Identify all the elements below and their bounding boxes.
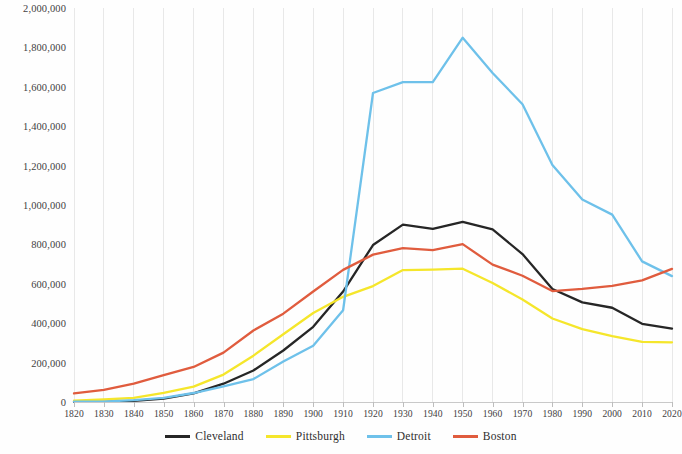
- x-tick-mark: [164, 402, 165, 407]
- y-tick-label: 400,000: [0, 318, 66, 329]
- legend-label: Cleveland: [195, 430, 243, 442]
- x-tick-mark: [134, 402, 135, 407]
- x-axis-ticks: [74, 402, 672, 407]
- y-tick-label: 1,800,000: [0, 42, 66, 53]
- legend-item-cleveland[interactable]: Cleveland: [165, 430, 243, 442]
- legend-item-boston[interactable]: Boston: [453, 430, 517, 442]
- x-axis: 1820183018401850186018701880189019001910…: [74, 408, 672, 424]
- x-tick-mark: [552, 402, 553, 407]
- x-tick-label: 1890: [274, 408, 294, 419]
- x-tick-mark: [642, 402, 643, 407]
- x-tick-mark: [313, 402, 314, 407]
- x-tick-mark: [523, 402, 524, 407]
- legend-label: Boston: [483, 430, 517, 442]
- x-tick-label: 1840: [124, 408, 144, 419]
- legend-label: Detroit: [397, 430, 431, 442]
- x-tick-label: 1880: [244, 408, 264, 419]
- x-tick-label: 1900: [303, 408, 323, 419]
- y-tick-label: 1,600,000: [0, 81, 66, 92]
- x-tick-label: 1830: [94, 408, 114, 419]
- y-tick-label: 1,000,000: [0, 200, 66, 211]
- x-tick-label: 1990: [573, 408, 593, 419]
- x-tick-label: 2010: [632, 408, 652, 419]
- legend-swatch-icon: [453, 435, 478, 438]
- chart-legend: ClevelandPittsburghDetroitBoston: [0, 430, 682, 442]
- x-tick-label: 1980: [543, 408, 563, 419]
- y-tick-label: 200,000: [0, 357, 66, 368]
- x-tick-mark: [104, 402, 105, 407]
- x-tick-label: 1970: [513, 408, 533, 419]
- legend-swatch-icon: [367, 435, 392, 438]
- y-tick-label: 1,400,000: [0, 121, 66, 132]
- population-line-chart: 0200,000400,000600,000800,0001,000,0001,…: [0, 0, 682, 454]
- series-line-detroit: [74, 38, 672, 402]
- x-tick-mark: [194, 402, 195, 407]
- x-tick-mark: [433, 402, 434, 407]
- y-tick-label: 2,000,000: [0, 3, 66, 14]
- x-tick-label: 2000: [602, 408, 622, 419]
- y-tick-label: 0: [0, 397, 66, 408]
- x-tick-mark: [672, 402, 673, 407]
- x-tick-mark: [373, 402, 374, 407]
- x-tick-label: 1860: [184, 408, 204, 419]
- x-tick-label: 1960: [483, 408, 503, 419]
- y-tick-label: 1,200,000: [0, 160, 66, 171]
- legend-label: Pittsburgh: [296, 430, 345, 442]
- x-tick-label: 1930: [393, 408, 413, 419]
- x-tick-label: 1910: [333, 408, 353, 419]
- x-tick-label: 1950: [453, 408, 473, 419]
- y-tick-label: 800,000: [0, 239, 66, 250]
- x-tick-mark: [612, 402, 613, 407]
- x-tick-mark: [582, 402, 583, 407]
- x-tick-label: 1820: [64, 408, 84, 419]
- x-tick-mark: [343, 402, 344, 407]
- y-axis: 0200,000400,000600,000800,0001,000,0001,…: [0, 8, 66, 402]
- y-tick-label: 600,000: [0, 278, 66, 289]
- x-tick-mark: [463, 402, 464, 407]
- legend-item-pittsburgh[interactable]: Pittsburgh: [266, 430, 345, 442]
- plot-area: [74, 8, 672, 402]
- x-tick-label: 1850: [154, 408, 174, 419]
- x-tick-mark: [403, 402, 404, 407]
- x-tick-mark: [253, 402, 254, 407]
- series-line-boston: [74, 244, 672, 393]
- x-tick-label: 1870: [214, 408, 234, 419]
- x-tick-mark: [224, 402, 225, 407]
- legend-swatch-icon: [165, 435, 190, 438]
- x-tick-label: 2020: [662, 408, 682, 419]
- x-tick-mark: [74, 402, 75, 407]
- x-tick-label: 1940: [423, 408, 443, 419]
- series-lines: [74, 8, 672, 402]
- x-tick-mark: [493, 402, 494, 407]
- legend-swatch-icon: [266, 435, 291, 438]
- x-tick-label: 1920: [363, 408, 383, 419]
- legend-item-detroit[interactable]: Detroit: [367, 430, 431, 442]
- x-tick-mark: [283, 402, 284, 407]
